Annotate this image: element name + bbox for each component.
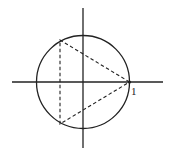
vertex-point-1-0 xyxy=(128,80,131,83)
unit-circle-diagram: 1 xyxy=(0,0,173,158)
label-one: 1 xyxy=(131,85,137,97)
